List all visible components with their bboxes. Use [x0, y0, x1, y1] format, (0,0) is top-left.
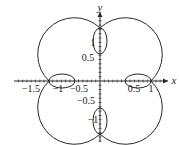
x-tick-label: 0.5 [128, 84, 141, 94]
x-tick-label: −1.5 [22, 84, 40, 94]
x-tick-label: −1 [53, 84, 64, 94]
x-tick-label: −0.5 [70, 84, 88, 94]
y-tick-label: 1 [91, 38, 96, 48]
x-tick-label: 1 [149, 84, 154, 94]
y-tick-label: −0.5 [77, 96, 95, 106]
y-tick-label: 0.5 [82, 53, 95, 63]
y-tick-label: −1 [88, 115, 99, 125]
y-axis-label: y [98, 2, 103, 12]
x-axis-label: x [172, 75, 177, 85]
